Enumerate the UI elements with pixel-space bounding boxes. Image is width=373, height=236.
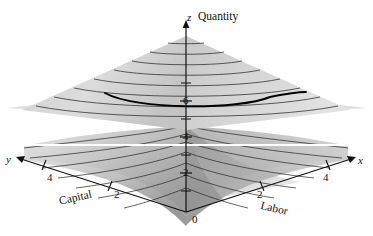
z-tick-label-6: 6: [183, 95, 189, 106]
z-axis-name-label: Quantity: [198, 11, 238, 23]
y-axis-variable-label: y: [6, 154, 11, 165]
upper-surface-right-face: [186, 36, 350, 130]
plot-canvas: [0, 0, 373, 236]
y-tick-label-2: 2: [114, 189, 120, 200]
origin-label: 0: [192, 214, 198, 225]
axes-group: [16, 20, 356, 212]
y-tick-label-4: 4: [47, 172, 53, 183]
z-axis-variable-label: z: [187, 12, 191, 23]
upper-surface-left-face: [22, 36, 186, 130]
z-tick-label-2: 2: [183, 167, 189, 178]
x-axis-variable-label: x: [358, 155, 363, 166]
x-tick-label-4: 4: [323, 172, 329, 183]
figure-3d-surface-plot: z Quantity x Labor y Capital 6 4 2 0 4 2…: [0, 0, 373, 236]
x-tick-label-2: 2: [257, 189, 263, 200]
z-tick-label-4: 4: [183, 131, 189, 142]
